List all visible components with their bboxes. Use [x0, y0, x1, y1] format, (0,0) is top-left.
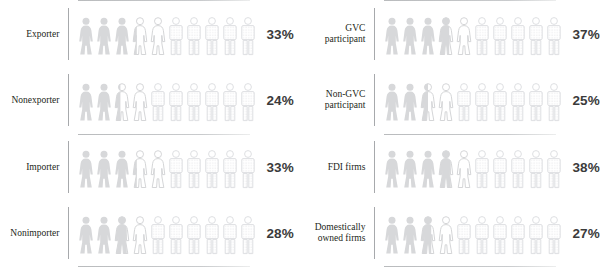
- figure-remainder: [186, 145, 202, 189]
- pictogram-block: Exporter33%Nonexporter24%: [0, 0, 306, 134]
- figure-filled: [78, 78, 94, 122]
- figure-remainder: [546, 78, 562, 122]
- figure-remainder: [510, 78, 526, 122]
- figure-filled: [402, 145, 418, 189]
- row-value-label: 33%: [256, 160, 306, 175]
- figure-remainder: [546, 211, 562, 255]
- pictogram-icons: [384, 145, 562, 189]
- figure-remainder: [222, 145, 238, 189]
- row-value-label: 24%: [256, 93, 306, 108]
- pictogram-row: Non-GVCparticipant25%: [306, 74, 612, 126]
- pictogram-row: Domesticallyowned firms27%: [306, 207, 612, 259]
- figure-remainder: [186, 211, 202, 255]
- figure-filled: [402, 78, 418, 122]
- figure-remainder: [456, 211, 472, 255]
- row-value-label: 28%: [256, 226, 306, 241]
- pictogram-chart: Exporter33%Nonexporter24%Importer33%Noni…: [0, 0, 612, 267]
- figure-remainder: [222, 211, 238, 255]
- figure-remainder: [240, 12, 256, 56]
- block-rows: Importer33%Nonimporter28%: [0, 135, 306, 267]
- figure-remainder: [168, 12, 184, 56]
- pictogram-icons: [78, 78, 256, 122]
- figure-partial: [438, 12, 454, 56]
- figure-remainder: [150, 211, 166, 255]
- figure-remainder: [240, 145, 256, 189]
- pictogram-icons: [384, 12, 562, 56]
- figure-remainder: [474, 12, 490, 56]
- row-label: Domesticallyowned firms: [306, 222, 374, 244]
- figure-outline: [438, 78, 454, 122]
- figure-outline: [132, 211, 148, 255]
- figure-filled: [78, 211, 94, 255]
- figure-filled: [420, 12, 436, 56]
- figure-remainder: [492, 145, 508, 189]
- figure-filled: [96, 78, 112, 122]
- pictogram-row: Importer33%: [0, 141, 306, 193]
- figure-remainder: [528, 12, 544, 56]
- pictogram-icons: [384, 211, 562, 255]
- pictogram-block: GVC participant37%Non-GVCparticipant25%: [306, 0, 612, 134]
- row-label: Exporter: [0, 29, 68, 40]
- figure-remainder: [510, 211, 526, 255]
- pictogram-icons: [78, 211, 256, 255]
- figure-outline: [456, 145, 472, 189]
- figure-remainder: [240, 78, 256, 122]
- figure-outline: [132, 78, 148, 122]
- figure-filled: [384, 145, 400, 189]
- figure-filled: [96, 12, 112, 56]
- pictogram-row: Exporter33%: [0, 8, 306, 60]
- row-plot-area: [374, 141, 562, 193]
- figure-remainder: [492, 78, 508, 122]
- figure-filled: [78, 145, 94, 189]
- row-label: Nonimporter: [0, 228, 68, 239]
- row-plot-area: [68, 141, 256, 193]
- pictogram-block: Importer33%Nonimporter28%: [0, 134, 306, 267]
- figure-remainder: [186, 12, 202, 56]
- figure-partial: [132, 12, 148, 56]
- figure-remainder: [510, 145, 526, 189]
- figure-remainder: [150, 78, 166, 122]
- pictogram-row: GVC participant37%: [306, 8, 612, 60]
- figure-filled: [78, 12, 94, 56]
- row-label: Importer: [0, 162, 68, 173]
- row-value-label: 38%: [562, 160, 612, 175]
- row-label: GVC participant: [306, 23, 374, 45]
- figure-filled: [402, 211, 418, 255]
- pictogram-block: FDI firms38%Domesticallyowned firms27%: [306, 134, 612, 267]
- figure-filled: [114, 145, 130, 189]
- figure-filled: [96, 145, 112, 189]
- figure-partial: [132, 145, 148, 189]
- figure-filled: [384, 78, 400, 122]
- figure-remainder: [492, 211, 508, 255]
- figure-remainder: [204, 145, 220, 189]
- figure-remainder: [204, 78, 220, 122]
- row-value-label: 27%: [562, 226, 612, 241]
- row-value-label: 25%: [562, 93, 612, 108]
- panel-gvc-ownership: GVC participant37%Non-GVCparticipant25%F…: [306, 0, 612, 267]
- block-rows: Exporter33%Nonexporter24%: [0, 1, 306, 134]
- row-plot-area: [68, 207, 256, 259]
- row-label: Non-GVCparticipant: [306, 89, 374, 111]
- figure-remainder: [456, 78, 472, 122]
- figure-filled: [384, 12, 400, 56]
- figure-remainder: [492, 12, 508, 56]
- figure-filled: [402, 12, 418, 56]
- figure-remainder: [204, 211, 220, 255]
- pictogram-row: Nonexporter24%: [0, 74, 306, 126]
- row-plot-area: [68, 74, 256, 126]
- pictogram-icons: [78, 12, 256, 56]
- figure-remainder: [168, 78, 184, 122]
- figure-remainder: [474, 211, 490, 255]
- figure-outline: [150, 12, 166, 56]
- pictogram-row: FDI firms38%: [306, 141, 612, 193]
- figure-partial: [114, 211, 130, 255]
- figure-remainder: [546, 145, 562, 189]
- figure-remainder: [528, 78, 544, 122]
- row-plot-area: [374, 207, 562, 259]
- row-label: Nonexporter: [0, 95, 68, 106]
- figure-outline: [456, 12, 472, 56]
- figure-remainder: [222, 78, 238, 122]
- pictogram-row: Nonimporter28%: [0, 207, 306, 259]
- figure-remainder: [474, 145, 490, 189]
- figure-filled: [420, 145, 436, 189]
